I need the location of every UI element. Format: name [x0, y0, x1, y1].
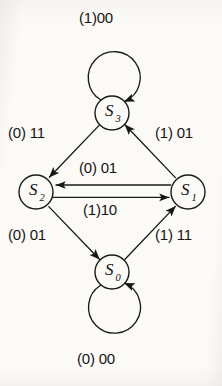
state-label-s0-subscript: 0: [116, 272, 122, 283]
edge-label-s2-to-s0: (0) 01: [8, 227, 46, 242]
state-label-s3-subscript: 3: [115, 113, 121, 124]
state-label-s2-subscript: 2: [40, 192, 46, 203]
edge-label-s1-to-s3: (1) 01: [155, 125, 193, 140]
state-label-s3-letter: S: [105, 101, 114, 120]
edge-label-s0-to-s1: (1) 11: [155, 227, 192, 242]
state-label-s0-letter: S: [105, 260, 114, 279]
state-graph-canvas: S 3 S 2 S 1 S 0: [0, 0, 222, 386]
edge-s0-self-loop: [89, 283, 141, 333]
edge-label-s0-self-loop: (0) 00: [77, 351, 115, 366]
edge-label-s3-self-loop: (1)00: [79, 10, 113, 25]
edge-label-s1-to-s2: (0) 01: [79, 160, 117, 175]
state-label-s1-letter: S: [181, 180, 190, 199]
state-diagram-figure: S 3 S 2 S 1 S 0 (1)00 (0) 11 (1) 01 (0) …: [0, 0, 222, 386]
state-label-s2-letter: S: [29, 180, 38, 199]
edge-label-s3-to-s2: (0) 11: [8, 125, 45, 140]
edge-label-s2-to-s1: (1)10: [83, 202, 117, 217]
edge-s3-self-loop: [88, 52, 140, 102]
state-label-s1-subscript: 1: [192, 192, 197, 203]
